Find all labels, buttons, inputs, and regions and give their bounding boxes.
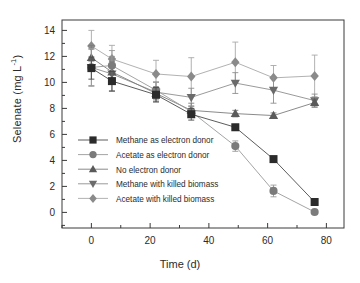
data-point-marker — [187, 94, 196, 102]
y-axis-tick-label: 14 — [44, 25, 56, 36]
data-point-marker — [87, 64, 95, 72]
data-point-marker — [89, 165, 97, 172]
data-point-marker — [270, 155, 278, 163]
data-point-marker — [89, 136, 96, 143]
y-axis-tick-label: 12 — [44, 51, 56, 62]
y-axis-tick-label: 0 — [49, 207, 55, 218]
legend-label: Acetate as electron donor — [116, 151, 210, 160]
x-axis-tick-label: 20 — [145, 235, 157, 246]
data-point-marker — [108, 61, 116, 69]
series-line — [91, 58, 314, 116]
x-axis-tick-label: 40 — [203, 235, 215, 246]
legend: Methane as electron donorAcetate as elec… — [78, 136, 218, 203]
data-point-marker — [310, 71, 318, 81]
y-axis-tick-label: 2 — [49, 181, 55, 192]
data-series — [87, 45, 319, 119]
legend-label: Methane as electron donor — [116, 136, 214, 145]
data-point-marker — [89, 151, 96, 158]
legend-label: No electron donor — [116, 166, 181, 175]
data-point-marker — [89, 194, 97, 203]
y-axis-label-main: Selenate (mg L — [11, 66, 23, 143]
y-axis-tick-label: 4 — [49, 155, 55, 166]
x-axis-tick-label: 0 — [89, 235, 95, 246]
data-series — [87, 49, 318, 216]
data-point-marker — [231, 109, 240, 117]
y-axis-label: Selenate (mg L-1) — [9, 39, 23, 159]
x-axis-tick-label: 60 — [262, 235, 274, 246]
data-point-marker — [89, 181, 97, 188]
data-point-marker — [231, 57, 239, 67]
y-axis-label-tail: ) — [11, 55, 23, 59]
data-point-marker — [187, 110, 195, 118]
data-series — [87, 49, 319, 107]
y-axis-tick-label: 8 — [49, 103, 55, 114]
y-axis-label-exponent: -1 — [9, 59, 18, 66]
chart-figure: 02468101214020406080Methane as electron … — [0, 0, 360, 283]
y-axis-tick-label: 6 — [49, 129, 55, 140]
legend-label: Methane with killed biomass — [116, 180, 218, 189]
data-point-marker — [231, 123, 239, 131]
data-series — [87, 30, 319, 96]
data-point-marker — [269, 187, 277, 195]
y-axis-tick-label: 10 — [44, 77, 56, 88]
data-point-marker — [187, 72, 195, 82]
legend-label: Acetate with killed biomass — [116, 195, 214, 204]
x-axis-label: Time (d) — [0, 258, 360, 270]
data-point-marker — [152, 91, 160, 99]
data-point-marker — [311, 208, 319, 216]
x-axis-tick-label: 80 — [321, 235, 333, 246]
data-point-marker — [108, 77, 116, 85]
data-point-marker — [311, 198, 319, 206]
selenate-time-series-plot: 02468101214020406080Methane as electron … — [0, 0, 360, 283]
data-point-marker — [231, 142, 239, 150]
data-point-marker — [152, 69, 160, 79]
